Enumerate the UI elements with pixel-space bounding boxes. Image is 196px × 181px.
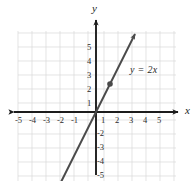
y-tick-label-minus5: -5 [97,171,104,180]
grid-horizontal-lines [18,33,176,176]
y-tick-label-minus4: -4 [97,157,104,166]
graph-canvas [0,0,196,181]
x-tick-label-3: 3 [129,116,133,125]
y-tick-label-3: 3 [87,71,91,80]
y-axis-label: y [92,3,97,14]
y-tick-label-4: 4 [87,57,91,66]
x-tick-label-minus1: -1 [71,116,78,125]
y-tick-label-minus3: -3 [97,143,104,152]
y-tick-label-2: 2 [87,85,91,94]
x-tick-label-minus3: -3 [43,116,50,125]
x-tick-label-1: 1 [101,116,105,125]
x-axis-label: x [185,105,190,116]
x-tick-label-minus5: -5 [15,116,22,125]
y-tick-label-1: 1 [87,99,91,108]
x-tick-label-minus4: -4 [29,116,36,125]
x-tick-label-4: 4 [143,116,147,125]
coordinate-plane-figure: y x y = 2x -5 -4 -3 -2 -1 1 2 3 4 5 5 4 … [0,0,196,181]
data-point-1-2 [107,81,113,87]
y-tick-label-5: 5 [87,43,91,52]
x-tick-label-2: 2 [115,116,119,125]
equation-label: y = 2x [130,65,157,75]
x-tick-label-5: 5 [157,116,161,125]
y-tick-label-minus2: -2 [97,129,104,138]
x-tick-label-minus2: -2 [57,116,64,125]
